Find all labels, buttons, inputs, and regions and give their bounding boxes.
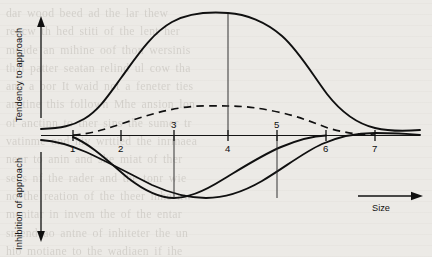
x-tick-label-7: 7 [372, 143, 377, 154]
y-axis-down-arrow [37, 152, 45, 242]
x-axis-label: Size [372, 203, 390, 213]
y-axis-top-label: Tendency to approach [14, 28, 24, 122]
inhibition-curve-a [73, 136, 326, 199]
x-tick-label-5: 5 [274, 119, 279, 130]
x-tick-label-1: 1 [70, 143, 75, 154]
x-tick-label-4: 4 [225, 143, 231, 154]
x-axis-size-arrow [358, 192, 423, 200]
x-tick-label-2: 2 [118, 143, 123, 154]
y-axis-up-arrow [37, 16, 45, 118]
approach-weak-curve [73, 106, 375, 135]
approach-strong-curve [41, 13, 420, 131]
y-axis-bottom-label: Inhibition of approach [14, 158, 24, 250]
figure-root: dar wood beed ad the lar thew rencw th h… [0, 0, 432, 257]
approach-inhibition-chart: Tendency to approach Inhibition of appro… [0, 0, 432, 257]
x-tick-label-3: 3 [171, 119, 176, 130]
inhibition-curve-b [41, 133, 420, 198]
x-tick-label-6: 6 [323, 143, 328, 154]
